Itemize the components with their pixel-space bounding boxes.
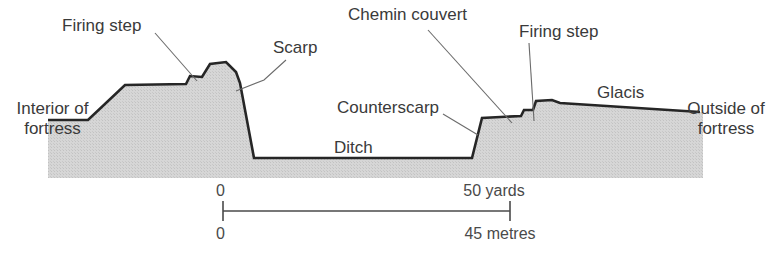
scale-label-right-bottom: 45 metres [464,225,535,243]
label-interior-of-fortress: Interior of fortress [0,60,105,177]
scale-label-right-top: 50 yards [463,182,524,200]
label-chemin-couvert: Chemin couvert [348,5,467,25]
label-firing-step-left: Firing step [62,16,141,36]
scale-label-left-top: 0 [216,182,225,200]
scale-label-left-bottom: 0 [216,225,225,243]
label-scarp: Scarp [273,38,317,58]
fortress-cross-section-figure: Interior of fortress Firing step Scarp C… [0,0,779,256]
leader-line-firing-step-left [155,33,197,81]
leader-line-scarp [236,60,286,91]
label-glacis: Glacis [597,83,644,103]
label-firing-step-right: Firing step [519,22,598,42]
label-ditch: Ditch [334,138,373,158]
label-outside-of-fortress: Outside of fortress [673,60,779,177]
leader-line-chemin-couvert [428,30,512,123]
leader-line-counterscarp [443,114,478,135]
diagram-canvas [0,0,779,256]
terrain-profile-shape [48,62,703,178]
label-counterscarp: Counterscarp [337,98,439,118]
